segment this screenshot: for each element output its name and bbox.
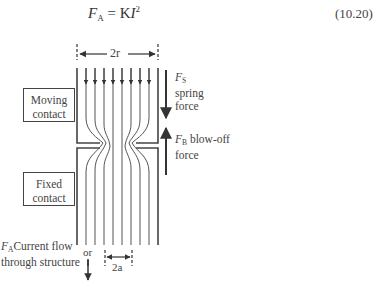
- blowoff-force-label: FB blow-off force: [175, 133, 230, 162]
- current-flow-label: FACurrent flow through structure: [1, 240, 80, 269]
- fixed-contact-box: Fixed contact: [23, 172, 75, 206]
- incoming-current-arrows: [86, 68, 149, 84]
- conductor-walls: [77, 68, 158, 245]
- fixed-contact-line2: contact: [24, 191, 74, 205]
- dimension-2a-label: 2a: [112, 261, 122, 274]
- blowoff-force-line2: force: [175, 149, 230, 162]
- spring-force-line1: spring: [175, 87, 204, 100]
- spring-force-line2: force: [175, 100, 204, 113]
- blowoff-force-text: blow-off: [187, 133, 230, 145]
- current-flow-text: Current flow: [13, 240, 72, 252]
- spring-force-label: FS spring force: [175, 71, 204, 113]
- dimension-2r-label: 2r: [110, 47, 120, 60]
- spring-force-subscript: S: [182, 76, 186, 85]
- moving-contact-line2: contact: [24, 107, 74, 121]
- current-flow-or: or: [82, 246, 93, 259]
- current-flow-lines: [86, 68, 149, 245]
- moving-contact-box: Moving contact: [23, 88, 75, 122]
- spring-force-symbol: F: [175, 71, 182, 83]
- fixed-contact-line1: Fixed: [24, 177, 74, 191]
- current-flow-symbol: F: [1, 240, 8, 252]
- moving-contact-line1: Moving: [24, 93, 74, 107]
- current-flow-line2: through structure: [1, 256, 80, 269]
- blowoff-force-symbol: F: [175, 133, 182, 145]
